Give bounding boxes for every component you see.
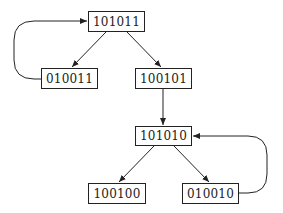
node-101010: 101010 [135,126,192,146]
edge-101010-to-100100 [119,146,154,182]
node-101011: 101011 [88,11,145,32]
edge-101011-to-010011 [72,32,106,67]
node-010011: 010011 [41,68,98,89]
edge-101011-to-100101 [127,32,161,67]
node-100101: 100101 [135,68,192,89]
node-010010: 010010 [182,183,239,204]
edge-101010-to-010010 [174,146,209,182]
node-100100: 100100 [88,183,146,204]
